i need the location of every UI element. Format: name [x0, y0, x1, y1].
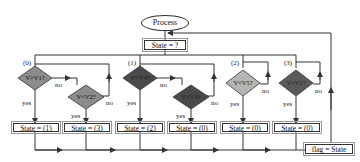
yes-label: yes — [283, 101, 292, 108]
state-result-box: State = (0) — [274, 123, 320, 132]
yes-label: yes — [176, 113, 185, 120]
flag-assign-label: flag = State — [312, 145, 347, 154]
decision-b1-d0-label: V<V4? — [128, 75, 152, 82]
no-label: no — [211, 100, 218, 107]
yes-label: yes — [230, 101, 239, 108]
process-label: Process — [153, 18, 177, 27]
state-check-label: State = ? — [152, 41, 178, 50]
branch-0-id: (0) — [23, 60, 31, 67]
no-label: no — [160, 82, 167, 89]
state-result-box: State = (0) — [222, 123, 268, 132]
decision-b2-d0-label: V<V5? — [231, 80, 255, 87]
decision-b0-d0-label: V>V1? — [23, 75, 47, 82]
state-check-box: State = ? — [144, 40, 186, 50]
branch-2-id: (2) — [231, 60, 239, 67]
state-result-label: State = (2) — [124, 124, 156, 133]
state-result-label: State = (0) — [229, 124, 261, 133]
state-result-box: State = (0) — [169, 123, 215, 132]
flag-assign-box: flag = State — [305, 144, 353, 154]
decision-b3-d0-label: V>V2? — [284, 80, 308, 87]
state-result-label: State = (0) — [176, 124, 208, 133]
no-label: no — [315, 88, 322, 95]
no-label: no — [262, 88, 269, 95]
no-label: no — [55, 82, 62, 89]
branch-1-id: (1) — [128, 60, 136, 67]
decision-b1-d1-label: V<V3? — [179, 94, 203, 101]
state-result-box: State = (3) — [64, 123, 110, 132]
state-result-label: State = (3) — [71, 124, 103, 133]
yes-label: yes — [71, 113, 80, 120]
no-label: no — [106, 100, 113, 107]
process-start-node: Process — [141, 15, 189, 31]
decision-b0-d1-label: V<V2? — [74, 94, 98, 101]
state-result-box: State = (1) — [13, 123, 59, 132]
branch-3-id: (3) — [284, 60, 292, 67]
state-result-label: State = (1) — [20, 124, 52, 133]
yes-label: yes — [22, 100, 31, 107]
state-result-label: State = (0) — [281, 124, 313, 133]
state-result-box: State = (2) — [117, 123, 163, 132]
yes-label: yes — [127, 100, 136, 107]
